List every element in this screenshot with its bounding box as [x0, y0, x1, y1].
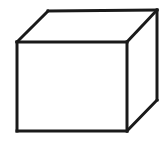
edge-back-top	[48, 10, 157, 11]
cube-figure-canvas: Cube	[0, 0, 165, 141]
cube-faces	[17, 10, 157, 131]
cube-face-front-face	[17, 42, 127, 131]
cube-line-drawing: Cube	[0, 0, 165, 141]
